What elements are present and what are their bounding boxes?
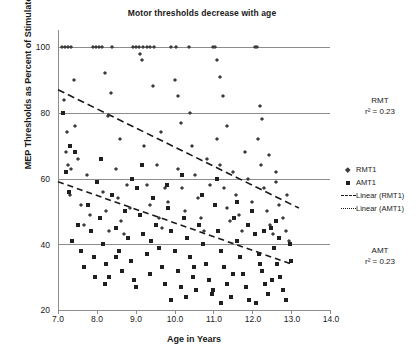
data-point-amt1: [235, 239, 239, 243]
x-axis-line: [58, 310, 330, 311]
data-point-amt1: [274, 219, 278, 223]
data-point-amt1: [257, 252, 261, 256]
data-point-amt1: [258, 262, 262, 266]
data-point-amt1: [269, 226, 273, 230]
data-point-amt1: [67, 190, 71, 194]
data-point-amt1: [262, 229, 266, 233]
data-point-amt1: [185, 236, 189, 240]
data-point-amt1: [61, 111, 65, 115]
data-point-amt1: [134, 285, 138, 289]
x-tick-10: 10.0: [155, 314, 195, 324]
data-point-amt1: [253, 232, 257, 236]
data-point-amt1: [70, 239, 74, 243]
scatter-chart: Motor thresholds decrease with age MEP T…: [0, 0, 416, 354]
data-point-amt1: [104, 262, 108, 266]
data-point-amt1: [241, 272, 245, 276]
data-point-amt1: [149, 239, 153, 243]
data-point-amt1: [141, 232, 145, 236]
data-point-amt1: [73, 150, 77, 154]
data-point-amt1: [176, 269, 180, 273]
data-point-amt1: [219, 301, 223, 305]
data-point-amt1: [289, 259, 293, 263]
data-point-amt1: [135, 186, 139, 190]
x-tick-9: 9.0: [116, 314, 156, 324]
data-point-amt1: [138, 213, 142, 217]
data-point-amt1: [123, 209, 127, 213]
plot-area: [58, 47, 330, 310]
data-point-amt1: [266, 292, 270, 296]
data-point-amt1: [270, 278, 274, 282]
legend-label-linear-rmt1: Linear (RMT1): [356, 191, 404, 200]
trendlines: [58, 47, 330, 310]
data-point-amt1: [86, 203, 90, 207]
data-point-amt1: [180, 173, 184, 177]
data-point-amt1: [263, 282, 267, 286]
data-point-amt1: [235, 200, 239, 204]
legend-item-linear-amt1[interactable]: Linear (AMT1): [340, 202, 404, 215]
data-point-amt1: [64, 170, 68, 174]
data-point-amt1: [281, 288, 285, 292]
annotation-amt: AMT r² = 0.23: [343, 246, 416, 268]
trendline-rmt: [58, 90, 299, 208]
data-point-amt1: [260, 269, 264, 273]
legend-label-amt1: AMT1: [356, 178, 376, 187]
data-point-amt1: [238, 255, 242, 259]
data-point-amt1: [229, 295, 233, 299]
data-point-amt1: [130, 177, 134, 181]
data-point-amt1: [179, 285, 183, 289]
data-point-amt1: [204, 262, 208, 266]
data-point-amt1: [231, 272, 235, 276]
data-point-amt1: [192, 265, 196, 269]
data-point-amt1: [278, 275, 282, 279]
data-point-amt1: [173, 249, 177, 253]
data-point-amt1: [275, 262, 279, 266]
data-point-amt1: [145, 252, 149, 256]
x-tick-14: 14.0: [311, 314, 351, 324]
x-tick-11: 11.0: [194, 314, 234, 324]
chart-title-text: Motor thresholds decrease with age: [128, 8, 276, 18]
data-point-amt1: [216, 229, 220, 233]
y-tick-60: 60: [4, 174, 50, 184]
chart-title: Motor thresholds decrease with age: [0, 8, 416, 18]
annotation-rmt-stat: r² = 0.23: [343, 107, 416, 118]
data-point-amt1: [213, 203, 217, 207]
x-axis-tick: [97, 310, 98, 314]
chart-legend: RMT1 AMT1 Linear (RMT1) Linear (AMT1): [340, 163, 404, 215]
legend-item-rmt1[interactable]: RMT1: [340, 163, 404, 176]
x-axis-tick: [252, 310, 253, 314]
annotation-rmt-label: RMT: [343, 96, 416, 107]
x-axis-tick: [136, 310, 137, 314]
data-point-amt1: [197, 223, 201, 227]
data-point-amt1: [148, 272, 152, 276]
data-point-amt1: [169, 229, 173, 233]
x-axis-label: Age in Years: [58, 334, 330, 344]
data-point-amt1: [211, 288, 215, 292]
data-point-amt1: [219, 249, 223, 253]
data-point-rmt1: [249, 199, 253, 203]
data-point-amt1: [79, 249, 83, 253]
data-point-amt1: [222, 265, 226, 269]
data-point-amt1: [184, 295, 188, 299]
data-point-amt1: [107, 275, 111, 279]
data-point-amt1: [132, 278, 136, 282]
data-point-amt1: [201, 242, 205, 246]
data-point-amt1: [244, 285, 248, 289]
annotation-rmt: RMT r² = 0.23: [343, 96, 416, 118]
legend-item-amt1[interactable]: AMT1: [340, 176, 404, 189]
data-point-amt1: [182, 216, 186, 220]
legend-item-linear-rmt1[interactable]: Linear (RMT1): [340, 189, 404, 202]
x-tick-7: 7.0: [38, 314, 78, 324]
data-point-amt1: [98, 216, 102, 220]
data-point-amt1: [114, 255, 118, 259]
data-point-amt1: [154, 223, 158, 227]
data-point-amt1: [151, 196, 155, 200]
data-point-amt1: [99, 157, 103, 161]
y-tick-100: 100: [4, 42, 50, 52]
data-point-amt1: [288, 242, 292, 246]
data-point-amt1: [117, 249, 121, 253]
diamond-marker-icon: [340, 168, 356, 172]
data-point-amt1: [120, 269, 124, 273]
data-point-amt1: [140, 163, 144, 167]
x-axis-tick: [330, 310, 331, 314]
data-point-amt1: [89, 229, 93, 233]
